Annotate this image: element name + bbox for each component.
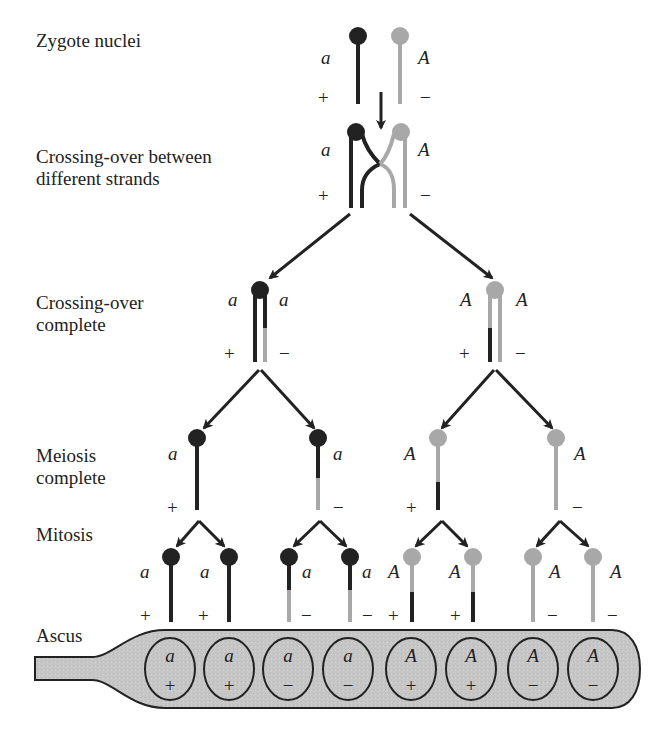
cc-left-mating-right: − (279, 343, 290, 364)
spore-2-allele: a (224, 645, 234, 666)
spore-4-mating: − (343, 675, 354, 696)
spore-5-mating: + (406, 675, 417, 696)
meiosis-allele-3: A (402, 443, 416, 464)
zygote-mating-right: − (420, 87, 431, 108)
mitosis-allele-3: a (302, 561, 312, 582)
spore-2-mating: + (224, 675, 235, 696)
zygote-allele-right: A (416, 47, 430, 68)
zygote-allele-left: a (321, 47, 331, 68)
cc-right-mating-right: − (515, 343, 526, 364)
mitosis-allele-4: a (362, 561, 372, 582)
spore-3-allele: a (283, 645, 293, 666)
mitosis-mating-2: + (198, 605, 209, 626)
crossing-mating-right: − (420, 185, 431, 206)
spore-8-mating: − (588, 675, 599, 696)
spore-6-mating: + (466, 675, 477, 696)
meiosis-diagram: a A + − a A + − a a + − A A + − (0, 0, 661, 735)
cc-left-allele-left: a (228, 289, 238, 310)
mitosis-chromosome-6 (464, 548, 482, 622)
meiosis-chromosome-2 (309, 429, 327, 510)
spore-4-allele: a (343, 645, 353, 666)
meiosis-allele-1: a (168, 443, 178, 464)
spore-8-allele: A (585, 645, 599, 666)
arrow-icon (261, 370, 314, 428)
arrow-icon (204, 370, 259, 428)
crossing-allele-left: a (321, 139, 331, 160)
mitosis-mating-5: + (388, 605, 399, 626)
cc-right-allele-right: A (514, 289, 528, 310)
crossing-chromosome-pair (347, 123, 410, 208)
mitosis-allele-1: a (140, 561, 150, 582)
cc-right-mating-left: + (459, 343, 470, 364)
mitosis-mating-4: − (362, 605, 373, 626)
cc-left-allele-right: a (279, 289, 289, 310)
crossing-mating-left: + (318, 185, 329, 206)
zygote-mating-left: + (318, 87, 329, 108)
meiosis-allele-2: a (333, 443, 343, 464)
mitosis-chromosome-3 (280, 548, 298, 622)
mitosis-allele-6: A (447, 561, 461, 582)
arrow-icon (270, 214, 350, 278)
mitosis-chromosome-1 (162, 548, 180, 622)
mitosis-chromosome-5 (403, 548, 421, 622)
mitosis-mating-6: + (450, 605, 461, 626)
meiosis-mating-1: + (167, 497, 178, 518)
arrow-icon (496, 370, 552, 428)
spore-1-mating: + (165, 675, 176, 696)
mitosis-allele-8: A (608, 561, 622, 582)
cc-right-allele-left: A (458, 289, 472, 310)
mitosis-mating-8: − (607, 605, 618, 626)
recombinant-chromosome-A (486, 281, 504, 362)
arrow-icon (410, 214, 492, 278)
spore-7-mating: − (528, 675, 539, 696)
meiosis-mating-4: − (572, 497, 583, 518)
mitosis-chromosome-8 (584, 548, 602, 622)
mitosis-chromosome-2 (220, 548, 238, 622)
meiosis-allele-4: A (572, 443, 586, 464)
zygote-chromosome-a (349, 27, 367, 104)
mitosis-mating-3: − (301, 605, 312, 626)
mitosis-allele-2: a (200, 561, 210, 582)
spore-1-allele: a (165, 645, 175, 666)
meiosis-mating-2: − (333, 497, 344, 518)
spore-5-allele: A (403, 645, 417, 666)
meiosis-chromosome-4 (547, 429, 565, 510)
mitosis-allele-5: A (386, 561, 400, 582)
meiosis-mating-3: + (406, 497, 417, 518)
spore-6-allele: A (463, 645, 477, 666)
mitosis-allele-7: A (547, 561, 561, 582)
meiosis-chromosome-1 (188, 429, 206, 510)
mitosis-mating-7: − (547, 605, 558, 626)
arrow-icon (442, 370, 494, 428)
mitosis-chromosome-7 (524, 548, 542, 622)
meiosis-chromosome-3 (429, 429, 447, 510)
cc-left-mating-left: + (224, 343, 235, 364)
zygote-chromosome-A (391, 27, 409, 104)
mitosis-chromosome-4 (341, 548, 359, 622)
mitosis-mating-1: + (140, 605, 151, 626)
mitosis-arrows (177, 521, 588, 546)
crossing-allele-right: A (416, 139, 430, 160)
recombinant-chromosome-a (251, 281, 269, 362)
spore-3-mating: − (283, 675, 294, 696)
spore-7-allele: A (525, 645, 539, 666)
